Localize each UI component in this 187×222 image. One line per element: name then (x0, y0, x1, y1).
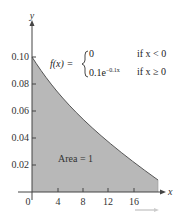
x-tick-label: 4 (56, 196, 61, 207)
y-tick-label: 0.06 (12, 105, 30, 116)
x-axis-arrow-icon (160, 190, 166, 195)
x-tick-label: 12 (103, 196, 113, 207)
formula-lhs: f(x) = (50, 59, 73, 69)
x-axis-label: x (167, 186, 173, 197)
cases-brace-icon (82, 51, 88, 77)
y-tick-label: 0.08 (12, 78, 30, 89)
x-tick-label: 0 (26, 196, 31, 207)
x-tick-label: 16 (129, 196, 139, 207)
x-tick-label: 8 (81, 196, 86, 207)
y-tick-label: 0.02 (12, 159, 30, 170)
y-tick-label: 0.10 (12, 51, 30, 62)
y-tick-label: 0.04 (12, 132, 30, 143)
formula-case2-cond: if x ≥ 0 (137, 67, 166, 77)
chart-plot: 0.10 0.08 0.06 0.04 0.02 0 4 8 12 16 x y… (0, 0, 187, 222)
area-label: Area = 1 (58, 153, 93, 164)
formula-case2-value: 0.1e−0.1x (89, 67, 120, 78)
y-axis-label: y (29, 10, 35, 21)
formula-case1-value: 0 (89, 49, 94, 59)
formula-case1-cond: if x < 0 (137, 49, 166, 59)
